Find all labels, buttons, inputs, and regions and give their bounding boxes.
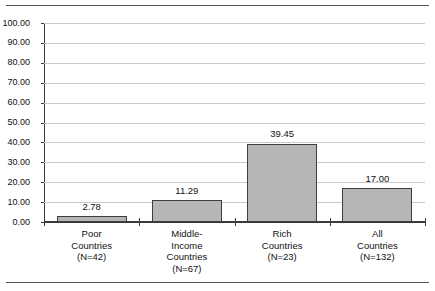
x-category-label-line: (N=67) [142, 263, 232, 275]
y-tick-mark [41, 162, 44, 163]
bar [152, 200, 222, 222]
y-tick-mark [41, 23, 44, 24]
x-tick-mark [425, 218, 426, 226]
gridline [44, 123, 425, 124]
y-tick-label: 60.00 [0, 98, 30, 107]
bar-value-label: 11.29 [157, 186, 217, 196]
x-category-label: PoorCountries(N=42) [47, 228, 137, 263]
x-category-label-line: Middle- [142, 228, 232, 240]
y-tick-label: 100.00 [0, 19, 30, 28]
y-tick-mark [41, 103, 44, 104]
y-tick-mark [41, 182, 44, 183]
figure-top-rule [6, 5, 429, 6]
y-tick-label: 20.00 [0, 178, 30, 187]
figure-bottom-rule [6, 282, 429, 283]
y-tick-mark [41, 142, 44, 143]
y-tick-label: 90.00 [0, 38, 30, 47]
x-category-label-line: (N=42) [47, 251, 137, 263]
x-category-label-line: All [332, 228, 422, 240]
x-category-label-line: Countries [142, 251, 232, 263]
x-category-label: Middle-IncomeCountries(N=67) [142, 228, 232, 274]
bar-value-label: 39.45 [252, 129, 312, 139]
bar-value-label: 2.78 [62, 202, 122, 212]
x-tick-mark [330, 218, 331, 226]
x-category-label-line: Countries [332, 240, 422, 252]
bar [57, 216, 127, 222]
x-category-label-line: Rich [237, 228, 327, 240]
gridline [44, 162, 425, 163]
y-tick-label: 30.00 [0, 158, 30, 167]
y-tick-label: 80.00 [0, 58, 30, 67]
plot-area: 100.0090.0080.0070.0060.0050.0040.0030.0… [44, 23, 425, 222]
x-tick-mark [139, 218, 140, 226]
y-tick-mark [41, 83, 44, 84]
chart-figure: 100.0090.0080.0070.0060.0050.0040.0030.0… [0, 0, 435, 291]
bar [342, 188, 412, 222]
x-tick-mark [44, 218, 45, 226]
x-category-label-line: Poor [47, 228, 137, 240]
x-category-label-line: Countries [237, 240, 327, 252]
y-tick-label: 40.00 [0, 138, 30, 147]
x-category-label: RichCountries(N=23) [237, 228, 327, 263]
y-tick-mark [41, 43, 44, 44]
x-category-label-line: (N=23) [237, 251, 327, 263]
x-category-label: AllCountries(N=132) [332, 228, 422, 263]
y-tick-mark [41, 123, 44, 124]
y-tick-mark [41, 63, 44, 64]
bar [247, 144, 317, 223]
gridline [44, 63, 425, 64]
gridline [44, 142, 425, 143]
gridline [44, 23, 425, 24]
y-tick-mark [41, 202, 44, 203]
bar-value-label: 17.00 [347, 174, 407, 184]
x-category-label-line: Income [142, 240, 232, 252]
gridline [44, 43, 425, 44]
x-tick-mark [235, 218, 236, 226]
gridline [44, 83, 425, 84]
clipped-title-remnant [96, 0, 256, 1]
x-category-label-line: (N=132) [332, 251, 422, 263]
y-tick-label: 70.00 [0, 78, 30, 87]
gridline [44, 103, 425, 104]
x-category-label-line: Countries [47, 240, 137, 252]
y-tick-label: 10.00 [0, 198, 30, 207]
y-tick-label: 0.00 [0, 218, 30, 227]
y-tick-label: 50.00 [0, 118, 30, 127]
